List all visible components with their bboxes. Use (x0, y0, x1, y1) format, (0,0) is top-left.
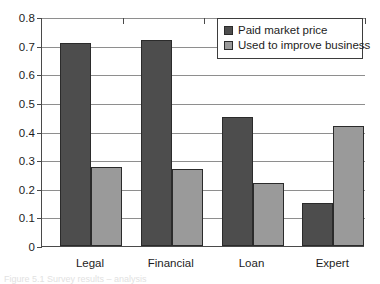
y-axis-tick-mark (37, 104, 42, 105)
figure-caption-sliver: Figure 5.1 Survey results – analysis (4, 274, 234, 284)
x-axis-tick-mark (123, 18, 124, 24)
x-axis-label-expert: Expert (316, 257, 349, 269)
bar-legal-series-1 (91, 167, 122, 246)
bar-financial-series-0 (141, 40, 172, 246)
bar-expert-series-1 (333, 126, 364, 246)
y-axis-tick-label: 0.6 (19, 69, 35, 81)
bar-legal-series-0 (60, 43, 91, 246)
x-axis-label-financial: Financial (148, 257, 194, 269)
y-axis-tick-label: 0.2 (19, 184, 35, 196)
x-axis-tick-mark (365, 18, 366, 24)
legend-item-paid-market-price: Paid market price (224, 23, 356, 38)
legend-swatch-icon-paid-market-price (224, 26, 233, 35)
legend-label-paid-market-price: Paid market price (238, 24, 327, 37)
y-axis-tick-mark (37, 190, 42, 191)
y-axis-tick-label: 0.5 (19, 98, 35, 110)
legend-swatch-icon-used-to-improve-business (224, 41, 233, 50)
y-axis-tick-mark (37, 161, 42, 162)
x-axis-label-loan: Loan (239, 257, 265, 269)
y-axis-tick-mark (37, 133, 42, 134)
x-axis-category-labels: LegalFinancialLoanExpert (41, 248, 364, 270)
bar-expert-series-0 (302, 203, 333, 246)
bar-loan-series-1 (253, 183, 284, 246)
bar-chart: 00.10.20.30.40.50.60.70.8 LegalFinancial… (0, 0, 380, 284)
y-axis-tick-mark (37, 18, 42, 19)
bar-financial-series-1 (172, 169, 203, 246)
y-axis-tick-mark (37, 47, 42, 48)
y-axis-tick-label: 0.3 (19, 155, 35, 167)
y-axis-tick-mark (37, 218, 42, 219)
legend-item-used-to-improve-business: Used to improve business (224, 38, 356, 53)
bar-loan-series-0 (222, 117, 253, 246)
y-axis-tick-label: 0.1 (19, 212, 35, 224)
y-axis-tick-label: 0.4 (19, 127, 35, 139)
legend-label-used-to-improve-business: Used to improve business (238, 39, 370, 52)
y-axis-tick-label: 0.8 (19, 12, 35, 24)
x-axis-label-legal: Legal (76, 257, 104, 269)
chart-legend: Paid market price Used to improve busine… (217, 18, 363, 59)
y-axis-tick-label: 0 (29, 241, 36, 253)
x-axis-tick-mark (204, 18, 205, 24)
y-axis-tick-mark (37, 75, 42, 76)
y-axis-tick-label: 0.7 (19, 41, 35, 53)
